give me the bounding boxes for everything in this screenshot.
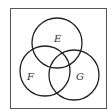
circle-g (49, 50, 99, 100)
venn-diagram: E F G (0, 0, 109, 111)
label-e: E (53, 33, 62, 44)
label-f: F (26, 71, 35, 82)
label-g: G (76, 71, 84, 82)
